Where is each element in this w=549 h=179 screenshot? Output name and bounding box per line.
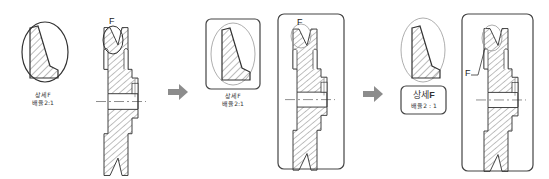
detail-marker: F [109,16,115,26]
detail-marker: F [297,17,303,27]
scale-label: 배율2:1 [218,101,248,107]
detail-label: 상세F [28,92,58,98]
arrow-right-icon [363,86,383,102]
detail-marker: F [465,68,471,78]
scale-label: 배율2 : 1 [404,103,444,109]
detail-label: 상세F [406,91,442,100]
scale-label: 배율2:1 [28,100,58,106]
detail-label: 상세F [218,93,248,99]
leader-line [471,48,485,75]
pulley-detail-diagram [0,0,549,179]
arrow-right-icon [168,84,188,100]
